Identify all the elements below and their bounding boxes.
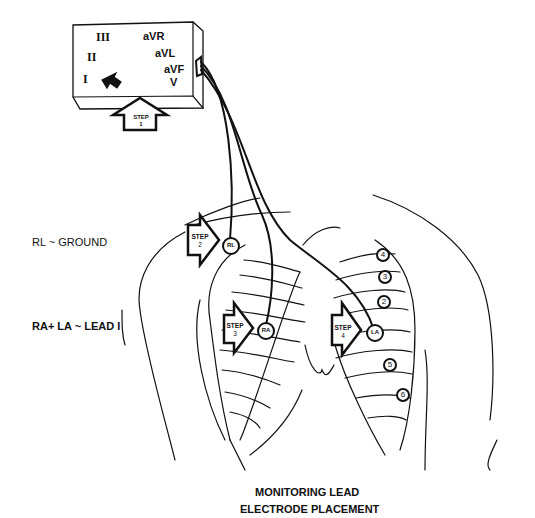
electrode-ra-label: RA [260, 327, 272, 333]
lead-label-avr: aVR [143, 30, 164, 42]
step-4-text: STEP [332, 324, 354, 332]
torso-outline [122, 195, 497, 470]
chest-pos-3-label: 3 [381, 272, 389, 281]
step-3-label: STEP 3 [224, 322, 246, 338]
lead-label-avf: aVF [164, 63, 184, 75]
step-3-number: 3 [224, 330, 246, 338]
step-2-number: 2 [189, 241, 211, 249]
step-1-number: 1 [131, 121, 151, 128]
lead-label-iii: III [96, 30, 110, 45]
chest-pos-2-label: 2 [380, 297, 388, 306]
lead-label-avl: aVL [155, 47, 175, 59]
chest-pos-4-label: 4 [379, 250, 387, 259]
ribcage-right-side [197, 245, 305, 470]
lead-label-i: I [83, 72, 88, 87]
step-4-label: STEP 4 [332, 324, 354, 340]
step-1-text: STEP [131, 114, 151, 121]
lead-label-ii: II [87, 50, 96, 65]
step-1-label: STEP 1 [131, 114, 151, 128]
chest-pos-5-label: 5 [386, 360, 394, 369]
sternum [305, 345, 334, 375]
diagram-canvas [0, 0, 535, 518]
step-2-label: STEP 2 [189, 233, 211, 249]
step-3-text: STEP [224, 322, 246, 330]
electrode-rl-label: RL [225, 242, 237, 248]
lead-label-v: V [170, 76, 177, 88]
chest-pos-6-label: 6 [399, 390, 407, 399]
legend-lead-i: RA+ LA ~ LEAD I [32, 320, 120, 332]
step-4-number: 4 [332, 332, 354, 340]
lead-cables [201, 62, 374, 330]
step-2-text: STEP [189, 233, 211, 241]
caption-line-1: MONITORING LEAD [255, 486, 359, 498]
caption-line-2: ELECTRODE PLACEMENT [240, 503, 379, 515]
electrode-la-label: LA [369, 329, 381, 335]
legend-ground: RL ~ GROUND [32, 236, 107, 248]
